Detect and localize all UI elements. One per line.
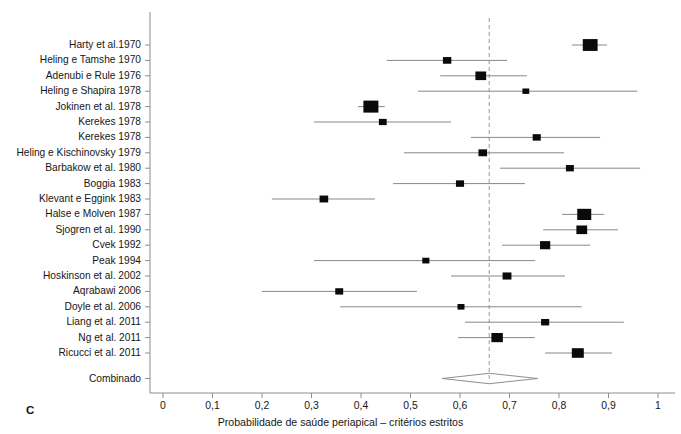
summary-diamond [442,373,538,383]
x-axis-tick-label: 1 [655,400,661,411]
study-row [500,165,640,171]
study-label: Barbakow et al. 1980 [45,163,141,173]
study-row [340,304,582,310]
study-label: Doyle et al. 2006 [65,302,141,312]
study-row [440,71,527,80]
study-label: Jokinen et al. 1978 [55,101,141,111]
x-axis-tick-label: 0,8 [552,400,566,411]
x-axis-title: Probabilidade de saúde periapical – crit… [0,416,681,428]
study-label: Kerekes 1978 [78,117,141,127]
study-row [358,101,385,113]
effect-estimate-marker [456,180,464,186]
x-axis-tick-label: 0,5 [403,400,417,411]
study-row [314,119,451,125]
study-row [545,348,612,358]
study-label: Adenubi e Rule 1976 [46,71,141,81]
study-row [393,180,525,186]
study-label: Heling e Shapira 1978 [40,86,141,96]
effect-estimate-marker [475,71,486,80]
study-row [562,209,604,220]
study-row [451,272,565,279]
study-row [572,39,607,51]
study-label: Liang et al. 2011 [66,317,141,327]
x-axis-tick-label: 0,3 [304,400,318,411]
x-axis-tick-label: 0,1 [205,400,219,411]
summary-label: Combinado [89,373,141,383]
effect-estimate-marker [572,348,584,358]
study-label: Sjogren et al. 1990 [55,225,141,235]
study-row [418,88,637,93]
study-label: Heling e Kischinovsky 1979 [16,148,141,158]
study-label: Cvek 1992 [92,240,141,250]
effect-estimate-marker [503,272,512,279]
x-axis-tick-label: 0,9 [601,400,615,411]
study-row [502,241,590,249]
x-axis-tick-label: 0,6 [453,400,467,411]
effect-estimate-marker [443,57,451,64]
study-row [543,225,618,234]
x-axis-tick-label: 0 [160,400,166,411]
effect-estimate-marker [363,101,378,113]
study-label: Boggia 1983 [84,178,141,188]
study-label: Hoskinson et al. 2002 [43,271,141,281]
forest-plot-figure: C Harty et al.1970Heling e Tamshe 1970Ad… [0,0,681,434]
effect-estimate-marker [458,304,465,310]
study-label-column: Harty et al.1970Heling e Tamshe 1970Aden… [0,0,141,434]
effect-estimate-marker [541,319,549,325]
effect-estimate-marker [522,88,529,93]
x-axis-tick-label: 0,4 [354,400,368,411]
effect-estimate-marker [577,209,591,220]
effect-estimate-marker [540,241,550,249]
study-rows-layer [262,39,640,358]
study-label: Kerekes 1978 [78,132,141,142]
effect-estimate-marker [379,119,387,125]
study-row [404,149,564,156]
study-label: Aqrabawi 2006 [73,286,141,296]
study-label: Ricucci et al. 2011 [59,348,141,358]
study-label: Heling e Tamshe 1970 [40,55,141,65]
study-label: Halse e Molven 1987 [45,209,141,219]
effect-estimate-marker [478,149,487,156]
axis-layer [145,12,675,398]
effect-estimate-marker [583,39,598,51]
study-row [471,134,600,140]
effect-estimate-marker [576,225,587,234]
effect-estimate-marker [335,288,343,294]
effect-estimate-marker [422,258,429,264]
study-label: Ng et al. 2011 [78,332,141,342]
effect-estimate-marker [491,333,502,342]
study-row [272,196,375,203]
effect-estimate-marker [566,165,574,171]
study-row [262,288,417,294]
effect-estimate-marker [320,196,329,203]
study-row [458,333,535,342]
effect-estimate-marker [533,134,541,140]
study-label: Klevant e Eggink 1983 [39,194,141,204]
study-row [314,258,535,264]
study-label: Peak 1994 [92,255,141,265]
x-axis-tick-label: 0,2 [255,400,269,411]
study-label: Harty et al.1970 [69,40,141,50]
summary-diamond-layer [442,373,538,383]
x-axis-tick-label: 0,7 [502,400,516,411]
